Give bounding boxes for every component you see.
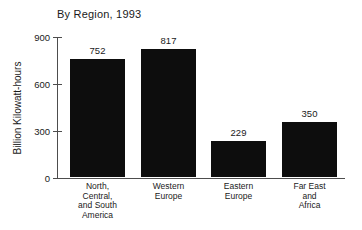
y-axis-tick-mark xyxy=(53,178,62,179)
bar: 229 xyxy=(211,141,266,177)
x-axis-category-label: Far East and Africa xyxy=(265,182,355,211)
y-axis-line xyxy=(57,37,58,179)
y-axis-tick-mark xyxy=(53,37,62,38)
y-axis-tick-mark xyxy=(53,131,62,132)
bar-value-label: 350 xyxy=(302,108,318,119)
bar: 752 xyxy=(70,59,125,177)
bar-value-label: 229 xyxy=(231,127,247,138)
y-axis-tick-label: 300 xyxy=(34,126,50,137)
y-axis-tick-label: 0 xyxy=(45,173,50,184)
chart-title: By Region, 1993 xyxy=(57,8,141,20)
x-axis-line xyxy=(57,178,345,179)
y-axis-tick-label: 900 xyxy=(34,32,50,43)
y-axis-title: Billion Kilowatt-hours xyxy=(11,33,25,183)
y-axis-tick-mark xyxy=(53,84,62,85)
chart-figure: By Region, 1993 Billion Kilowatt-hours 0… xyxy=(0,0,362,230)
bar-value-label: 752 xyxy=(90,45,106,56)
bar: 350 xyxy=(282,122,337,177)
bar-value-label: 817 xyxy=(161,35,177,46)
y-axis-tick-label: 600 xyxy=(34,79,50,90)
plot-area: 0300600900 752817229350 xyxy=(57,37,345,178)
bar: 817 xyxy=(141,49,196,177)
